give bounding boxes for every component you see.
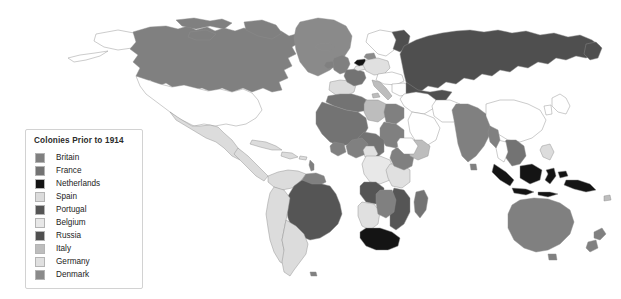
legend-row: Italy <box>33 242 135 255</box>
map-legend: Colonies Prior to 1914 BritainFranceNeth… <box>25 129 143 289</box>
legend-swatch <box>35 205 45 215</box>
legend-label: Germany <box>56 257 90 266</box>
legend-title: Colonies Prior to 1914 <box>34 136 135 145</box>
legend-row: Denmark <box>33 268 135 281</box>
legend-label: Belgium <box>56 218 86 227</box>
legend-swatch <box>35 231 45 241</box>
region-tasmania <box>548 254 557 260</box>
legend-label: France <box>56 166 81 175</box>
legend-label: Britain <box>56 153 79 162</box>
legend-item-list: BritainFranceNetherlandsSpainPortugalBel… <box>33 151 135 281</box>
legend-swatch <box>35 270 45 280</box>
region-pacific-islands <box>604 195 611 201</box>
legend-row: Portugal <box>33 203 135 216</box>
legend-row: France <box>33 164 135 177</box>
legend-swatch <box>35 166 45 176</box>
legend-swatch <box>35 218 45 228</box>
region-libya <box>364 100 386 122</box>
legend-label: Italy <box>56 244 71 253</box>
legend-row: Britain <box>33 151 135 164</box>
legend-label: Russia <box>56 231 81 240</box>
legend-swatch <box>35 192 45 202</box>
region-falklands <box>310 272 317 276</box>
world-map-figure: Colonies Prior to 1914 BritainFranceNeth… <box>0 0 621 299</box>
legend-row: Spain <box>33 190 135 203</box>
legend-row: Germany <box>33 255 135 268</box>
legend-swatch <box>35 257 45 267</box>
legend-row: Netherlands <box>33 177 135 190</box>
legend-swatch <box>35 244 45 254</box>
legend-label: Netherlands <box>56 179 100 188</box>
legend-swatch <box>35 179 45 189</box>
legend-swatch <box>35 153 45 163</box>
legend-label: Denmark <box>56 270 89 279</box>
legend-row: Belgium <box>33 216 135 229</box>
region-ceylon <box>470 164 477 170</box>
legend-row: Russia <box>33 229 135 242</box>
legend-label: Portugal <box>56 205 87 214</box>
legend-label: Spain <box>56 192 77 201</box>
